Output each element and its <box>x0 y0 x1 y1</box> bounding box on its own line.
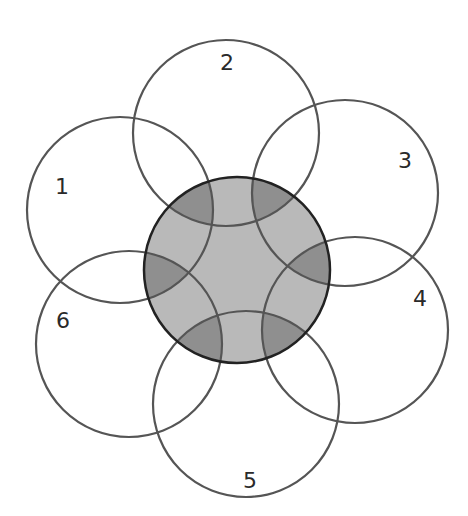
circle-label-2: 2 <box>220 50 234 75</box>
circle-label-1: 1 <box>55 174 69 199</box>
circle-label-3: 3 <box>398 148 412 173</box>
flower-venn-diagram: 123456 <box>0 0 468 516</box>
circle-label-4: 4 <box>413 286 427 311</box>
circle-label-6: 6 <box>56 308 70 333</box>
circle-label-5: 5 <box>243 468 257 493</box>
